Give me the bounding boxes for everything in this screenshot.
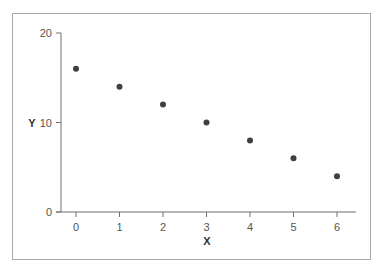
- data-point: [334, 173, 340, 179]
- data-point: [204, 120, 210, 126]
- x-tick-label: 6: [334, 221, 340, 233]
- x-tick-label: 0: [73, 221, 79, 233]
- y-axis-title: Y: [28, 117, 36, 129]
- x-tick-label: 3: [203, 221, 209, 233]
- data-point: [247, 137, 253, 143]
- x-tick-label: 5: [290, 221, 296, 233]
- data-point: [117, 84, 123, 90]
- data-point: [160, 102, 166, 108]
- y-tick-label: 0: [46, 206, 52, 218]
- data-point: [73, 66, 79, 72]
- data-point: [291, 155, 297, 161]
- x-tick-label: 1: [116, 221, 122, 233]
- y-tick-label: 20: [40, 27, 52, 39]
- scatter-chart: 01020 0123456 X Y: [0, 0, 383, 271]
- x-axis-title: X: [203, 235, 211, 247]
- x-tick-label: 4: [247, 221, 253, 233]
- x-tick-label: 2: [160, 221, 166, 233]
- y-tick-label: 10: [40, 117, 52, 129]
